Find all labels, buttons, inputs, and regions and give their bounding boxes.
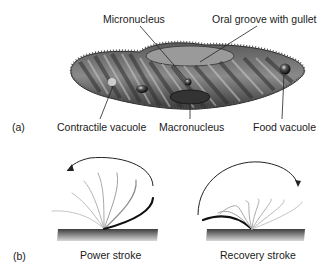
label-micronucleus: Micronucleus [103,13,165,25]
paramecium-illustration [71,42,304,109]
label-recovery-stroke: Recovery stroke [220,249,296,261]
label-power-stroke: Power stroke [80,249,141,261]
figure-canvas [0,0,327,268]
label-oral-groove: Oral groove with gullet [212,13,316,25]
label-macronucleus: Macronucleus [159,121,224,133]
panel-b-label: (b) [13,250,26,262]
recovery-stroke-illustration [198,162,305,241]
panel-a-label: (a) [12,121,25,133]
label-contractile-vacuole: Contractile vacuole [57,121,146,133]
label-food-vacuole: Food vacuole [253,121,316,133]
power-stroke-illustration [52,157,158,241]
